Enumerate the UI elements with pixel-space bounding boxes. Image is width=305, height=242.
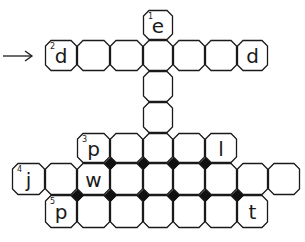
- crossword-cell[interactable]: [110, 163, 143, 195]
- cell-letter: e: [143, 10, 173, 40]
- cell-letter: [237, 163, 268, 195]
- cell-letter: [173, 40, 205, 71]
- crossword-cell[interactable]: l: [205, 133, 237, 163]
- cell-letter: p: [45, 195, 77, 228]
- crossword-cell[interactable]: 4j: [12, 163, 45, 195]
- crossword-cell[interactable]: [45, 163, 77, 195]
- crossword-cell[interactable]: 2d: [45, 40, 77, 71]
- right-arrow-icon: [2, 49, 34, 63]
- cell-letter: [268, 163, 300, 195]
- crossword-cell[interactable]: [77, 40, 110, 71]
- cell-letter: d: [237, 40, 268, 71]
- cell-letter: [110, 40, 143, 71]
- crossword-cell[interactable]: [173, 133, 205, 163]
- cell-letter: [77, 40, 110, 71]
- cell-letter: [143, 195, 173, 228]
- crossword-cell[interactable]: [143, 40, 173, 71]
- crossword-cell[interactable]: t: [237, 195, 268, 228]
- cell-letter: [173, 133, 205, 163]
- crossword-cell[interactable]: [268, 163, 300, 195]
- crossword-cell[interactable]: [143, 163, 173, 195]
- crossword-cell[interactable]: 1e: [143, 10, 173, 40]
- crossword-cell[interactable]: [110, 133, 143, 163]
- crossword-cell[interactable]: [173, 40, 205, 71]
- crossword-cell[interactable]: [173, 195, 205, 228]
- cell-letter: [205, 195, 237, 228]
- crossword-cell[interactable]: [205, 163, 237, 195]
- cell-letter: [205, 40, 237, 71]
- crossword-cell[interactable]: w: [77, 163, 110, 195]
- crossword-cell[interactable]: [143, 102, 173, 133]
- crossword-cell[interactable]: [143, 133, 173, 163]
- cell-letter: [45, 163, 77, 195]
- cell-letter: [205, 163, 237, 195]
- crossword-cell[interactable]: [110, 195, 143, 228]
- cell-letter: l: [205, 133, 237, 163]
- cell-letter: j: [12, 163, 45, 195]
- cell-letter: [110, 195, 143, 228]
- cell-letter: [173, 163, 205, 195]
- cell-letter: p: [77, 133, 110, 163]
- crossword-cell[interactable]: [173, 163, 205, 195]
- crossword-cell[interactable]: 3p: [77, 133, 110, 163]
- crossword-cell[interactable]: [110, 40, 143, 71]
- crossword-cell[interactable]: [205, 195, 237, 228]
- crossword-cell[interactable]: [143, 195, 173, 228]
- cell-letter: [110, 133, 143, 163]
- cell-letter: [110, 163, 143, 195]
- cell-letter: [173, 195, 205, 228]
- crossword-board: 1e2dd3pl4jw5pt: [0, 0, 305, 242]
- crossword-cell[interactable]: [205, 40, 237, 71]
- crossword-cell[interactable]: 5p: [45, 195, 77, 228]
- cell-letter: [143, 133, 173, 163]
- cell-letter: d: [45, 40, 77, 71]
- cell-letter: [143, 102, 173, 133]
- crossword-cell[interactable]: [77, 195, 110, 228]
- cell-letter: [143, 40, 173, 71]
- cell-letter: [77, 195, 110, 228]
- cell-letter: w: [77, 163, 110, 195]
- crossword-cell[interactable]: [237, 163, 268, 195]
- crossword-cell[interactable]: [143, 71, 173, 102]
- crossword-cell[interactable]: d: [237, 40, 268, 71]
- cell-letter: [143, 163, 173, 195]
- cell-letter: [143, 71, 173, 102]
- cell-letter: t: [237, 195, 268, 228]
